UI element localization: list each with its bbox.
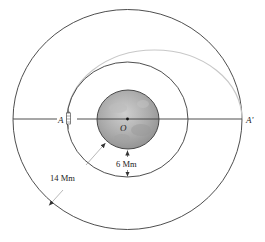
orbit-diagram: A A' O 6 Mm 14 Mm [0,0,265,242]
dimension-14mm-line-lower [49,190,63,206]
label-start-point: A [57,115,64,125]
dimension-14mm-line-upper [86,143,106,165]
label-inner-gap: 6 Mm [116,159,137,169]
label-outer-radius: 14 Mm [50,173,75,183]
label-center: O [120,123,127,133]
center-point [126,118,129,121]
label-end-point: A' [245,115,254,125]
